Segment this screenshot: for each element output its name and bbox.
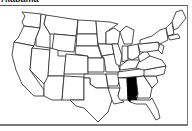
state-maine [172, 10, 186, 30]
state-kansas [88, 58, 104, 72]
state-montana [44, 15, 78, 36]
state-florida [130, 98, 160, 120]
state-north-dakota [77, 20, 97, 34]
state-utah [48, 48, 66, 76]
state-new-york [140, 28, 168, 44]
state-south-dakota [76, 34, 98, 46]
state-indiana [122, 46, 128, 62]
state-new-mexico [62, 76, 84, 100]
state-washington [22, 12, 41, 28]
state-mississippi [118, 78, 128, 100]
state-colorado [64, 54, 88, 74]
state-michigan [120, 26, 134, 44]
state-arizona [44, 76, 64, 100]
us-map [0, 0, 192, 131]
